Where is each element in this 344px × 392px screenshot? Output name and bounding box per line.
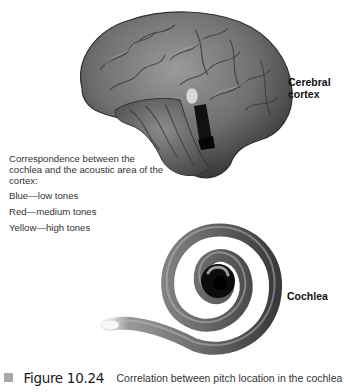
legend-item-blue: Blue—low tones <box>9 190 169 201</box>
legend-intro: Correspondence between the cochlea and t… <box>9 153 169 186</box>
caption-text: Correlation between pitch location in th… <box>116 372 342 384</box>
figure-caption: Figure 10.24 Correlation between pitch l… <box>4 368 344 386</box>
cochlea-label: Cochlea <box>287 290 328 302</box>
cerebral-label-line2: cortex <box>288 88 331 100</box>
cochlea-illustration <box>100 215 290 360</box>
cerebral-label-line1: Cerebral <box>288 76 331 88</box>
figure-number: Figure 10.24 <box>23 370 104 386</box>
caption-square-icon <box>4 373 13 382</box>
cerebral-cortex-label: Cerebral cortex <box>288 76 331 100</box>
